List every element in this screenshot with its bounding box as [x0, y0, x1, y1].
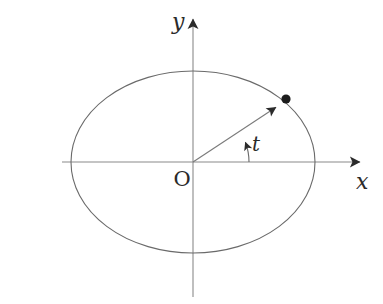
diagram-canvas: [0, 0, 383, 304]
y-axis-label: y: [172, 11, 184, 33]
angle-arc: [245, 142, 249, 162]
x-axis-label: x: [356, 171, 368, 193]
angle-parameter-label: t: [252, 134, 260, 154]
origin-label: O: [174, 169, 191, 190]
radius-vector-line: [193, 107, 276, 162]
point-marker-dot: [281, 94, 290, 103]
ellipse-diagram-figure: y x t O: [0, 0, 383, 304]
